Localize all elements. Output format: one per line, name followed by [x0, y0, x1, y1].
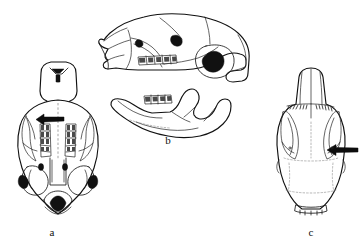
incisive-foramen [56, 75, 60, 82]
figure-plate: a [0, 0, 360, 248]
molar-row-left [40, 124, 51, 157]
basisphenoid-foramen-left [38, 164, 43, 171]
rostrum-outline [40, 62, 77, 106]
lower-tooth-row-lateral [144, 95, 172, 104]
upper-tooth-row-lateral [138, 55, 177, 65]
molar-row-right [65, 124, 76, 157]
infraorbital-foramen [135, 40, 143, 48]
panel-c-caption: c [309, 226, 314, 238]
panel-a-caption: a [50, 226, 55, 238]
skull-plate-illustration: a [0, 0, 360, 248]
basisphenoid-foramen-right [62, 164, 67, 171]
panel-b-caption: b [165, 134, 171, 146]
